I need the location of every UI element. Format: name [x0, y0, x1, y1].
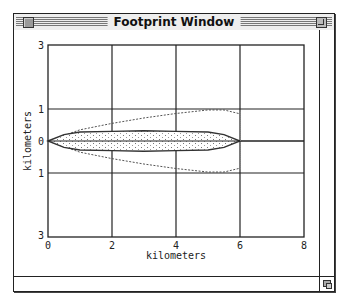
window-title: Footprint Window: [108, 14, 241, 30]
horizontal-scrollbar[interactable]: [14, 276, 334, 291]
close-box-icon[interactable]: [23, 17, 34, 28]
x-tick-label: 6: [237, 240, 243, 251]
plot-area: 0246831013kilometerskilometers: [14, 30, 319, 278]
y-tick-label: 1: [38, 168, 44, 179]
x-tick-label: 8: [301, 240, 307, 251]
y-tick-label: 3: [38, 40, 44, 51]
title-bar[interactable]: Footprint Window: [14, 14, 334, 31]
y-tick-label: 3: [38, 230, 44, 241]
grow-box-icon[interactable]: [319, 276, 334, 291]
y-tick-label: 1: [38, 104, 44, 115]
vertical-scrollbar[interactable]: [319, 30, 334, 278]
y-axis-label: kilometers: [22, 111, 33, 171]
x-tick-label: 2: [109, 240, 115, 251]
footprint-chart: 0246831013kilometerskilometers: [14, 30, 319, 278]
zoom-box-icon[interactable]: [316, 17, 327, 28]
x-axis-label: kilometers: [146, 250, 206, 261]
x-tick-label: 0: [45, 240, 51, 251]
y-tick-label: 0: [38, 136, 44, 147]
footprint-window: Footprint Window 0246831013kilometerskil…: [13, 13, 335, 292]
